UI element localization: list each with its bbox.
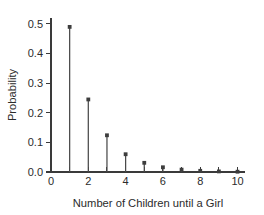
stem-marker: [142, 161, 146, 165]
stem-marker: [86, 98, 90, 102]
x-tick-label: 2: [85, 175, 91, 187]
x-tick-label: 10: [231, 175, 243, 187]
y-tick-label: 0.3: [28, 77, 43, 89]
x-tick-label: 8: [197, 175, 203, 187]
y-tick-label: 0.1: [28, 136, 43, 148]
stem-marker: [161, 165, 165, 169]
y-tick-label: 0.4: [28, 47, 43, 59]
y-axis-title: Probability: [6, 68, 18, 121]
stem-marker: [180, 168, 184, 172]
stem-marker: [198, 169, 202, 173]
stem-marker: [68, 25, 72, 29]
y-tick-label: 0.5: [28, 18, 43, 30]
x-tick-label: 4: [123, 175, 129, 187]
stem-marker: [217, 170, 221, 174]
x-axis-title: Number of Children until a Girl: [73, 197, 223, 209]
stem-plot-figure: 0.00.10.20.30.40.5 0246810 Probability N…: [0, 0, 264, 215]
x-tick-label: 0: [48, 175, 54, 187]
stem-marker: [105, 133, 109, 137]
y-tick-label: 0.0: [28, 166, 43, 178]
stem-marker: [124, 152, 128, 156]
x-tick-label: 6: [160, 175, 166, 187]
stem-marker: [236, 170, 240, 174]
chart-container: 0.00.10.20.30.40.5 0246810 Probability N…: [0, 0, 264, 215]
y-tick-label: 0.2: [28, 107, 43, 119]
